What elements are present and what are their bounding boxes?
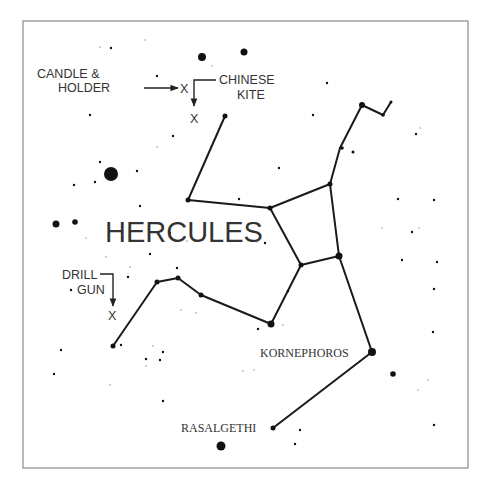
candle-marker-x: X [180,82,189,96]
drill-marker-x: X [108,309,117,323]
star [162,351,164,353]
star [359,102,365,108]
faint-star [145,365,147,367]
faint-star [144,39,146,41]
star [199,293,204,298]
kite-marker-x: X [190,112,199,126]
star [352,151,355,154]
star [127,276,129,278]
kite-label-line2: KITE [237,88,265,102]
faint-star [419,127,421,129]
drill-label-line2: GUN [77,283,105,297]
star [238,198,240,200]
star [436,261,438,263]
star [120,344,122,346]
faint-star [195,312,197,314]
star [411,231,413,233]
star [145,358,147,360]
faint-star [129,266,131,268]
star [433,424,435,426]
star [299,263,304,268]
star [53,221,60,228]
faint-star [417,389,419,391]
star [159,359,161,361]
star [72,219,78,225]
faint-star [99,46,101,48]
faint-star [242,370,244,372]
star [104,167,118,181]
faint-star [381,227,383,229]
faint-star [180,309,182,311]
star [186,198,191,203]
star [326,82,328,84]
star [264,242,266,244]
star [73,184,75,186]
star [176,276,181,281]
star [94,181,96,183]
star [217,442,226,451]
star [60,349,62,351]
star [415,133,417,135]
star [110,47,112,49]
star [257,328,259,330]
hercules-constellation-chart: HERCULES CANDLE & HOLDER X CHINESE KITE … [0,0,493,491]
faint-star [152,345,154,347]
star [241,49,248,56]
star [397,198,399,200]
faint-star [109,384,111,386]
drill-label-line1: DRILL [62,268,97,282]
star [162,400,164,402]
star [312,114,314,116]
star [139,205,141,207]
faint-star [282,324,284,326]
star [176,267,178,269]
named-star-rasalgethi [271,426,276,431]
star [336,253,343,260]
star [172,135,174,137]
star [149,253,151,255]
faint-star [85,237,87,239]
star [299,429,301,431]
star [294,443,296,445]
star [155,280,160,285]
star [268,206,273,211]
star [433,199,435,201]
star [223,114,228,119]
star [156,75,158,77]
star [381,113,385,117]
faint-star [156,146,158,148]
faint-star [418,227,420,229]
star [278,167,280,169]
star [198,53,206,61]
star [390,101,393,104]
star [70,289,72,291]
constellation-title: HERCULES [105,216,263,248]
star [53,373,55,375]
star [390,371,396,377]
faint-star [427,379,429,381]
star [89,114,91,116]
faint-star [253,369,255,371]
named-star-kornephoros [368,348,376,356]
star [287,290,289,292]
candle-label-line1: CANDLE & [37,67,100,81]
star [432,331,434,333]
star [111,344,116,349]
star [328,182,333,187]
star [268,321,275,328]
faint-star [105,256,107,258]
star [401,259,403,261]
star [433,288,435,290]
rasalgethi-label: RASALGETHI [181,421,256,435]
star [136,170,138,172]
star [340,146,344,150]
kornephoros-label: KORNEPHOROS [260,346,349,360]
candle-label-line2: HOLDER [58,81,110,95]
star [99,161,101,163]
kite-label-line1: CHINESE [219,73,275,87]
faint-star [211,65,213,67]
